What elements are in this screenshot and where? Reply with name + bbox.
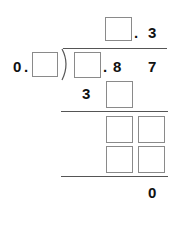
dividend-tenths-digit: 8 <box>113 59 121 74</box>
divisor-zero: 0 <box>13 59 21 74</box>
step2-subtract-blank-1[interactable] <box>106 146 133 173</box>
divisor-decimal-point: . <box>24 59 28 74</box>
divisor-tenths-blank[interactable] <box>32 52 58 77</box>
step1-blank[interactable] <box>106 81 133 108</box>
step1-line <box>61 111 168 112</box>
step2-line <box>61 176 168 177</box>
final-remainder: 0 <box>148 185 156 200</box>
step2-remainder-blank-1[interactable] <box>106 116 133 143</box>
dividend-units-blank[interactable] <box>74 52 101 78</box>
step2-remainder-blank-2[interactable] <box>138 116 165 143</box>
step2-subtract-blank-2[interactable] <box>138 146 165 173</box>
dividend-decimal-point: . <box>103 59 107 74</box>
dividend-hundredths-digit: 7 <box>148 59 156 74</box>
step1-digit: 3 <box>82 86 90 101</box>
